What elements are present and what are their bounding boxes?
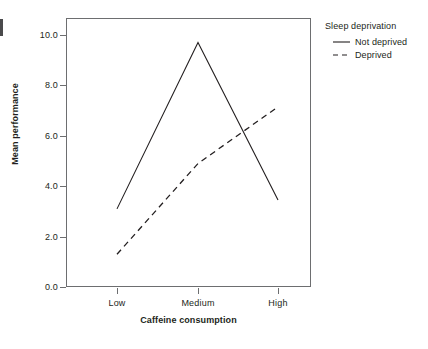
x-axis-label: Caffeine consumption	[66, 315, 311, 325]
legend-label: Not deprived	[352, 37, 407, 47]
series-line-not-deprived	[117, 43, 278, 209]
dashed-line-icon	[333, 50, 352, 60]
legend: Sleep deprivation Not deprived Deprived	[325, 21, 425, 61]
ytick-label: 10.0	[40, 30, 58, 40]
xtick-label-low: Low	[108, 298, 125, 308]
legend-label: Deprived	[352, 50, 392, 60]
xtick-mark	[117, 288, 118, 294]
ytick-mark	[60, 287, 66, 288]
ytick-label: 8.0	[45, 80, 58, 90]
ytick-label: 6.0	[45, 131, 58, 141]
y-axis-label: Mean performance	[10, 74, 20, 174]
ytick-label: 2.0	[45, 232, 58, 242]
solid-line-icon	[333, 37, 352, 47]
ytick-label: 0.0	[45, 282, 58, 292]
xtick-mark	[198, 288, 199, 294]
xtick-mark	[278, 288, 279, 294]
page-edge-artifact	[0, 19, 3, 36]
ytick-label: 4.0	[45, 181, 58, 191]
chart-figure: 10.0 8.0 6.0 4.0 2.0 0.0 Mean performanc…	[0, 0, 428, 349]
series-line-deprived	[117, 107, 278, 254]
legend-item-deprived[interactable]: Deprived	[325, 48, 425, 61]
xtick-label-medium: Medium	[181, 298, 214, 308]
plot-lines	[66, 18, 311, 287]
legend-item-not-deprived[interactable]: Not deprived	[325, 35, 425, 48]
legend-title: Sleep deprivation	[325, 21, 425, 31]
xtick-label-high: High	[268, 298, 287, 308]
